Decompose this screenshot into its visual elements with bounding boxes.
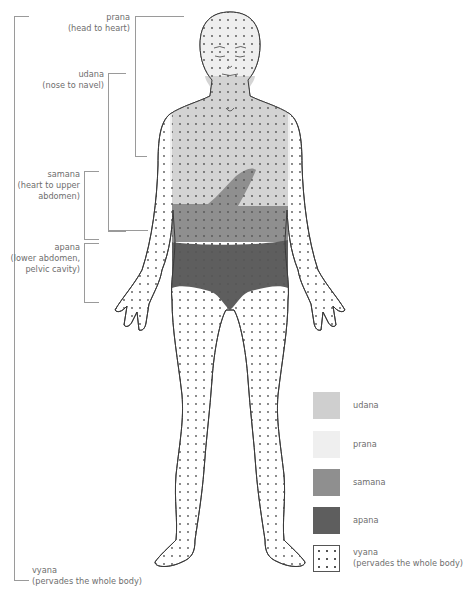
udana-swatch xyxy=(313,392,340,419)
legend-label-apana: apana xyxy=(353,515,378,526)
legend-item-apana xyxy=(313,507,340,534)
prana-swatch xyxy=(313,431,340,458)
legend-item-samana xyxy=(313,469,340,496)
samana-swatch xyxy=(313,469,340,496)
apana-swatch xyxy=(313,507,340,534)
legend-item-vyana xyxy=(313,545,340,572)
legend-item-udana xyxy=(313,392,340,419)
vyana-swatch xyxy=(313,545,340,572)
legend-label-prana: prana xyxy=(353,439,377,450)
legend-item-prana xyxy=(313,431,340,458)
legend-vyana-extent: (pervades the whole body) xyxy=(353,558,463,569)
legend-label-samana: samana xyxy=(353,477,385,488)
legend-label-vyana: vyana (pervades the whole body) xyxy=(353,547,463,569)
legend-vyana-name: vyana xyxy=(353,547,463,558)
legend-label-udana: udana xyxy=(353,400,379,411)
body-figure xyxy=(0,0,470,600)
